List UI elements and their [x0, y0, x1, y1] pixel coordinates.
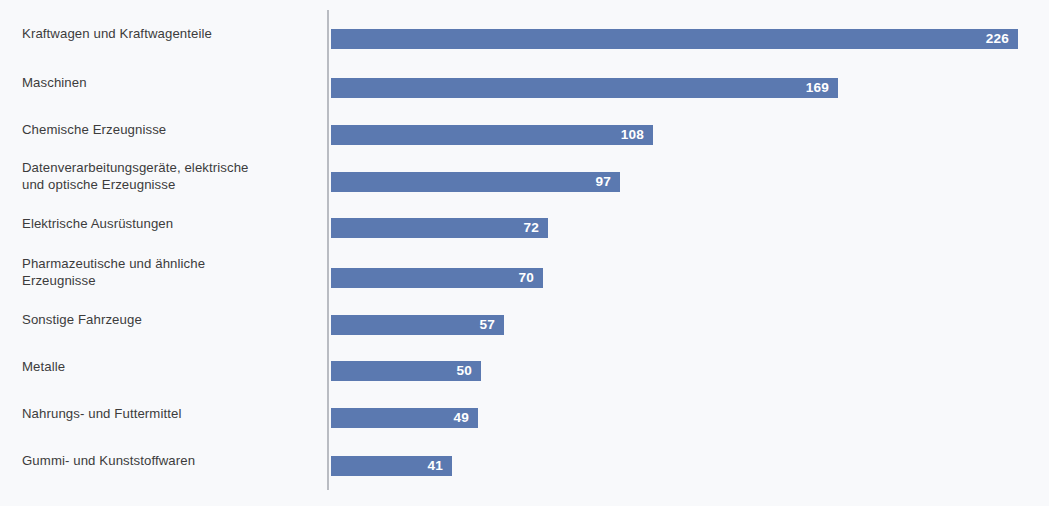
bar: 226 [331, 29, 1018, 49]
bar-row: 70 [331, 268, 543, 288]
bar: 72 [331, 218, 548, 238]
bar-row: 41 [331, 456, 452, 476]
category-label: Elektrische Ausrüstungen [22, 215, 322, 232]
bar-row: 49 [331, 408, 478, 428]
bar: 49 [331, 408, 478, 428]
category-label: Datenverarbeitungsgeräte, elektrische un… [22, 159, 322, 193]
category-label: Pharmazeutische und ähnliche Erzeugnisse [22, 255, 322, 289]
bar: 41 [331, 456, 452, 476]
category-label: Kraftwagen und Kraftwagenteile [22, 25, 322, 42]
bar-value-label: 72 [523, 221, 539, 235]
bar-value-label: 70 [518, 271, 534, 285]
bar-value-label: 57 [479, 318, 495, 332]
bar: 97 [331, 172, 620, 192]
bar-row: 226 [331, 29, 1018, 49]
category-label: Metalle [22, 358, 322, 375]
bar-row: 108 [331, 125, 653, 145]
category-label: Gummi- und Kunststoffwaren [22, 452, 322, 469]
bar: 169 [331, 78, 838, 98]
bar: 50 [331, 361, 481, 381]
bar-value-label: 108 [621, 128, 644, 142]
bar-row: 72 [331, 218, 548, 238]
bar-value-label: 49 [453, 411, 469, 425]
horizontal-bar-chart: Kraftwagen und KraftwagenteileMaschinenC… [0, 0, 1049, 506]
bar-row: 169 [331, 78, 838, 98]
bar: 57 [331, 315, 504, 335]
category-label-column: Kraftwagen und KraftwagenteileMaschinenC… [0, 0, 327, 506]
bar-value-label: 50 [456, 364, 472, 378]
bar-row: 97 [331, 172, 620, 192]
plot-area: 22616910897727057504941 [331, 0, 1049, 506]
category-label: Nahrungs- und Futtermittel [22, 405, 322, 422]
bar-value-label: 97 [595, 175, 611, 189]
bar-value-label: 169 [806, 81, 829, 95]
category-label: Sonstige Fahrzeuge [22, 311, 322, 328]
bar: 70 [331, 268, 543, 288]
bar-value-label: 226 [986, 32, 1009, 46]
bar-row: 50 [331, 361, 481, 381]
bar-row: 57 [331, 315, 504, 335]
value-axis-line [327, 10, 329, 490]
category-label: Chemische Erzeugnisse [22, 121, 322, 138]
bar-value-label: 41 [427, 459, 443, 473]
category-label: Maschinen [22, 74, 322, 91]
bar: 108 [331, 125, 653, 145]
